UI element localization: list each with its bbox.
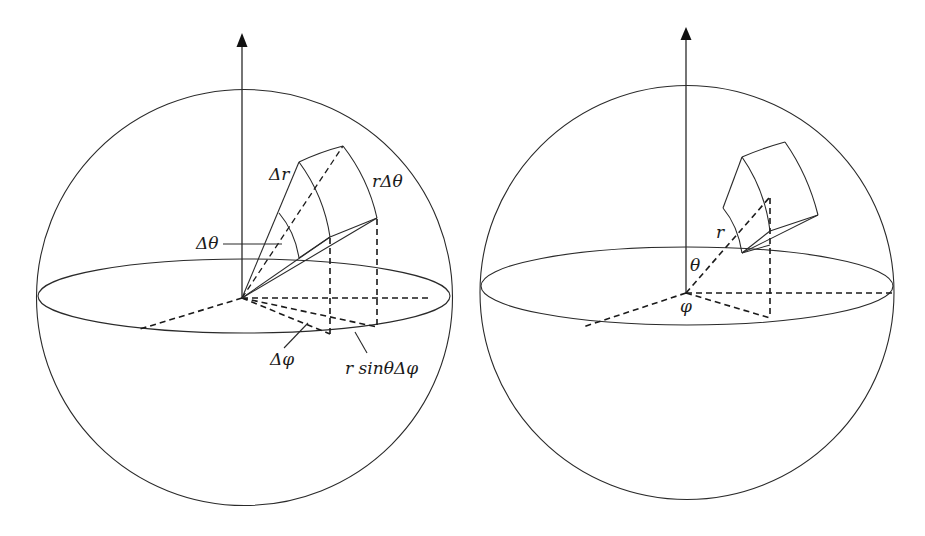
label-delta-phi: Δφ: [269, 349, 294, 369]
left-volume-element: [242, 146, 377, 298]
left-dashed-projection-1: [242, 298, 330, 334]
right-dashed-projection: [686, 293, 770, 318]
label-r-sin-theta-delta-phi: r sinθΔφ: [345, 358, 418, 378]
leader-delta-phi: [284, 323, 308, 348]
label-theta: θ: [690, 255, 700, 275]
spherical-coordinates-figure: Δr rΔθ Δθ Δφ r sinθΔφ: [0, 0, 925, 536]
label-delta-theta: Δθ: [195, 233, 219, 253]
left-z-axis-arrowhead-icon: [237, 33, 248, 47]
label-r: r: [716, 222, 725, 242]
label-delta-r: Δr: [268, 164, 290, 184]
label-phi: φ: [680, 296, 692, 316]
right-dashed-x-axis: [583, 293, 686, 327]
left-panel: Δr rΔθ Δθ Δφ r sinθΔφ: [37, 33, 453, 506]
right-z-axis-arrowhead-icon: [681, 27, 692, 40]
right-panel: r θ φ: [480, 27, 894, 500]
left-dashed-x-axis: [140, 298, 242, 329]
label-r-delta-theta: rΔθ: [372, 171, 403, 191]
right-volume-element: [723, 142, 818, 253]
left-dashed-projection-2: [242, 298, 377, 327]
leader-r-sin-theta-delta-phi: [355, 332, 367, 353]
